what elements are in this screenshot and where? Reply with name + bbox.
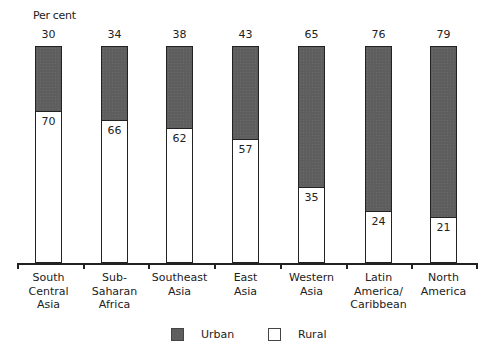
category-label: NorthAmerica <box>412 271 476 298</box>
category-label: SouthCentralAsia <box>17 271 81 312</box>
legend-rural-swatch <box>268 328 281 341</box>
rural-value-label: 62 <box>167 132 192 145</box>
bar: 70 <box>35 46 62 263</box>
urban-value-label: 65 <box>292 28 332 41</box>
category-label-line: South <box>17 271 81 285</box>
x-axis <box>17 263 477 265</box>
category-label: Sub-SaharanAfrica <box>83 271 147 312</box>
x-axis-tick <box>346 263 348 269</box>
category-label: WesternAsia <box>280 271 344 298</box>
rural-value-label: 24 <box>366 215 391 228</box>
urban-value-label: 34 <box>95 28 135 41</box>
category-label: SoutheastAsia <box>148 271 212 298</box>
bar-urban-segment <box>36 47 61 112</box>
bar-urban-segment <box>366 47 391 212</box>
urban-value-label: 43 <box>226 28 266 41</box>
category-label-line: Africa <box>83 298 147 312</box>
bar: 21 <box>430 46 457 263</box>
bar-urban-segment <box>299 47 324 188</box>
legend-urban-label: Urban <box>201 328 234 341</box>
category-label-line: Sub- <box>83 271 147 285</box>
category-label-line: Central <box>17 285 81 299</box>
category-label-line: Caribbean <box>347 298 411 312</box>
category-label-line: America <box>412 285 476 299</box>
urban-value-label: 38 <box>160 28 200 41</box>
bar-urban-segment <box>102 47 127 121</box>
x-axis-tick <box>83 263 85 269</box>
category-label-line: Saharan <box>83 285 147 299</box>
bar: 62 <box>166 46 193 263</box>
category-label-line: America/ <box>347 285 411 299</box>
category-label-line: Asia <box>148 285 212 299</box>
urban-value-label: 30 <box>29 28 69 41</box>
bar-urban-segment <box>233 47 258 140</box>
x-axis-tick <box>280 263 282 269</box>
bar: 57 <box>232 46 259 263</box>
bar: 24 <box>365 46 392 263</box>
urban-value-label: 79 <box>424 28 464 41</box>
rural-value-label: 35 <box>299 191 324 204</box>
rural-value-label: 70 <box>36 115 61 128</box>
rural-value-label: 66 <box>102 124 127 137</box>
x-axis-tick <box>214 263 216 269</box>
urban-value-label: 76 <box>359 28 399 41</box>
category-label: EastAsia <box>214 271 278 298</box>
rural-value-label: 21 <box>431 221 456 234</box>
category-label-line: Southeast <box>148 271 212 285</box>
legend-urban-swatch <box>171 328 184 341</box>
x-axis-tick <box>476 263 478 269</box>
category-label: LatinAmerica/Caribbean <box>347 271 411 312</box>
legend-rural-label: Rural <box>298 328 326 341</box>
category-label-line: Asia <box>280 285 344 299</box>
y-axis-label: Per cent <box>33 9 76 22</box>
x-axis-tick <box>411 263 413 269</box>
bar: 35 <box>298 46 325 263</box>
bar-urban-segment <box>431 47 456 218</box>
category-label-line: Latin <box>347 271 411 285</box>
bar-urban-segment <box>167 47 192 129</box>
x-axis-tick <box>148 263 150 269</box>
rural-value-label: 57 <box>233 143 258 156</box>
category-label-line: Asia <box>17 298 81 312</box>
category-label-line: North <box>412 271 476 285</box>
category-label-line: East <box>214 271 278 285</box>
bar: 66 <box>101 46 128 263</box>
category-label-line: Asia <box>214 285 278 299</box>
x-axis-tick <box>17 263 19 269</box>
category-label-line: Western <box>280 271 344 285</box>
